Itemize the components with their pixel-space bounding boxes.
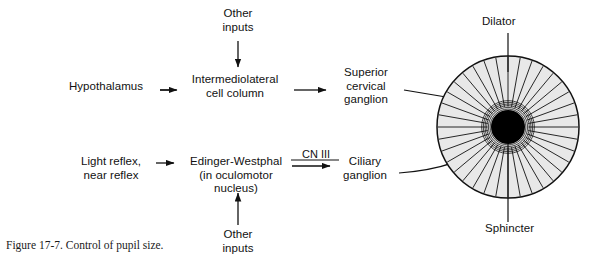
label-superior-cervical-ganglion: Superior cervical ganglion (330, 66, 402, 107)
label-dilator-muscle: Dilator (482, 15, 552, 29)
label-edinger-westphal-nucleus: Edinger-Westphal (in oculomotor nucleus) (178, 155, 294, 196)
pupil (491, 110, 525, 144)
label-hypothalamus: Hypothalamus (58, 80, 154, 94)
label-intermediolateral-cell-column: Intermediolateral cell column (182, 73, 288, 100)
label-sphincter-muscle: Sphincter (485, 222, 565, 236)
label-cranial-nerve-three: CN III (294, 148, 338, 161)
figure-control-of-pupil-size: Hypothalamus Intermediolateral cell colu… (0, 0, 593, 273)
label-other-inputs-top: Other inputs (207, 7, 269, 34)
figure-caption: Figure 17-7. Control of pupil size. (6, 238, 163, 252)
label-ciliary-ganglion: Ciliary ganglion (334, 155, 396, 182)
label-other-inputs-bottom: Other inputs (207, 228, 269, 255)
label-light-and-near-reflex: Light reflex, near reflex (62, 155, 160, 182)
